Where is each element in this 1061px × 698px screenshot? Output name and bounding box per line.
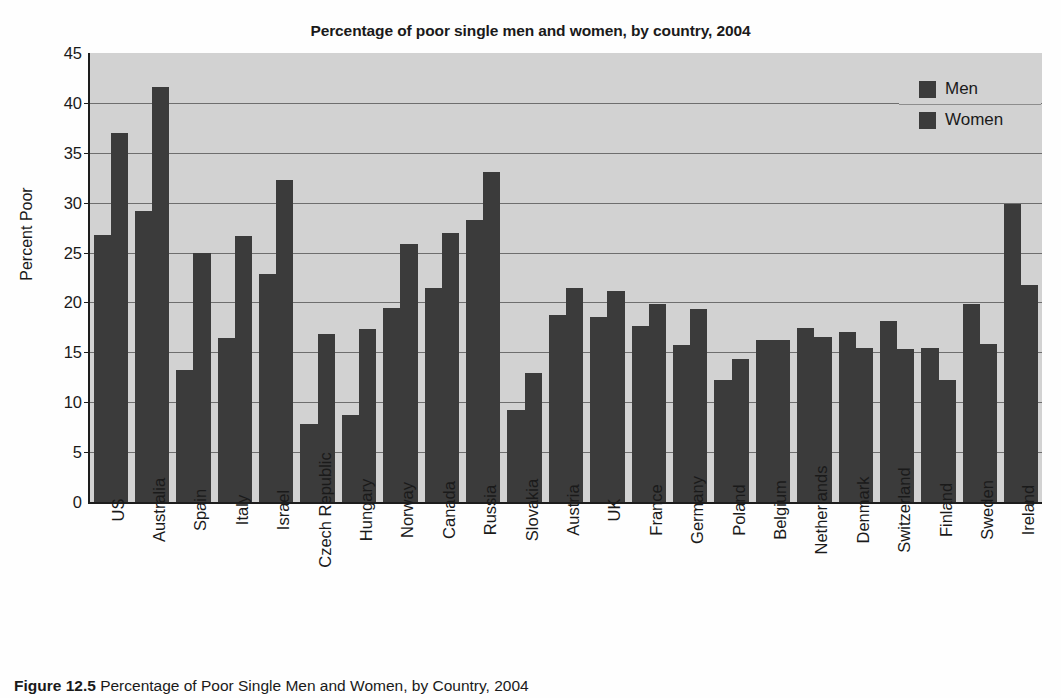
x-tick-cell: Sweden [957, 506, 998, 656]
bar-men [921, 348, 938, 502]
bar-women [400, 244, 417, 502]
x-tick-cell: Russia [461, 506, 502, 656]
x-tick-cell: Finland [916, 506, 957, 656]
y-tick-label: 20 [64, 293, 82, 312]
legend-label: Men [945, 79, 978, 99]
x-tick-label: Netherlands [812, 466, 831, 555]
x-tick-cell: Norway [378, 506, 419, 656]
y-axis-tick-labels: 454035302520151050 [44, 53, 88, 502]
bar-men [425, 288, 442, 502]
bar-group [628, 53, 669, 502]
bar-women [276, 180, 293, 502]
bar-group [90, 53, 131, 502]
bar-women [111, 133, 128, 502]
bar-men [259, 274, 276, 502]
bar-group [794, 53, 835, 502]
bar-group [504, 53, 545, 502]
x-tick-cell: Italy [212, 506, 253, 656]
bar-women [980, 344, 997, 502]
bar-men [714, 380, 731, 502]
bar-group [131, 53, 172, 502]
bar-men [135, 211, 152, 502]
x-tick-label: Norway [398, 482, 417, 538]
chart-title: Percentage of poor single men and women,… [0, 22, 1061, 40]
bar-women [649, 304, 666, 502]
bar-group [711, 53, 752, 502]
x-tick-label: Hungary [357, 479, 376, 541]
x-tick-cell: France [626, 506, 667, 656]
x-tick-cell: Hungary [336, 506, 377, 656]
bar-group [587, 53, 628, 502]
bar-group [752, 53, 793, 502]
bar-women [773, 340, 790, 502]
bar-men [218, 338, 235, 502]
x-tick-cell: Switzerland [874, 506, 915, 656]
x-tick-label: Austria [564, 484, 583, 535]
x-tick-label: Spain [191, 489, 210, 531]
bar-women [690, 309, 707, 502]
bar-men [756, 340, 773, 502]
x-tick-label: Canada [440, 481, 459, 539]
bar-group [835, 53, 876, 502]
bar-men [176, 370, 193, 502]
bar-group [380, 53, 421, 502]
x-tick-label: Belgium [771, 480, 790, 540]
x-tick-cell: Poland [709, 506, 750, 656]
x-tick-label: Finland [937, 483, 956, 537]
bar-men [632, 326, 649, 502]
bar-group [173, 53, 214, 502]
y-tick-label: 45 [64, 44, 82, 63]
bar-group [669, 53, 710, 502]
x-tick-cell: Israel [254, 506, 295, 656]
legend-label: Women [945, 110, 1003, 130]
bar-women [607, 291, 624, 502]
x-tick-label: France [647, 484, 666, 535]
legend-item: Men [899, 74, 1041, 104]
x-tick-cell: Slovakia [502, 506, 543, 656]
x-tick-label: Czech Republic [316, 452, 335, 568]
y-tick-label: 30 [64, 193, 82, 212]
bar-group [338, 53, 379, 502]
x-tick-cell: Australia [129, 506, 170, 656]
y-tick-label: 40 [64, 93, 82, 112]
bar-women [152, 87, 169, 502]
y-tick-label: 5 [73, 443, 82, 462]
x-tick-label: Italy [233, 495, 252, 525]
bar-women [442, 233, 459, 502]
y-tick-label: 0 [73, 493, 82, 512]
x-tick-label: Germany [688, 476, 707, 544]
x-tick-label: Sweden [978, 480, 997, 540]
y-tick-label: 25 [64, 243, 82, 262]
figure-caption-number: Figure 12.5 [14, 677, 96, 694]
x-axis-tick-labels: USAustraliaSpainItalyIsraelCzech Republi… [88, 506, 1040, 656]
y-tick-label: 15 [64, 343, 82, 362]
x-tick-cell: Denmark [833, 506, 874, 656]
x-tick-cell: UK [585, 506, 626, 656]
legend-item: Women [899, 104, 1041, 135]
x-tick-label: Switzerland [895, 467, 914, 552]
legend-swatch-men [919, 81, 936, 98]
bar-group [214, 53, 255, 502]
x-tick-cell: Ireland [999, 506, 1040, 656]
x-tick-label: Poland [730, 484, 749, 535]
bar-group [545, 53, 586, 502]
figure-caption-text: Percentage of Poor Single Men and Women,… [100, 677, 529, 694]
bar-women [193, 253, 210, 502]
x-tick-label: Israel [274, 490, 293, 530]
chart-legend: MenWomen [899, 70, 1041, 141]
bar-men [590, 317, 607, 502]
bar-women [483, 172, 500, 502]
bar-women [1021, 285, 1038, 503]
y-axis-title: Percent Poor [18, 144, 36, 324]
x-tick-cell: Spain [171, 506, 212, 656]
bar-men [383, 308, 400, 502]
x-tick-label: US [109, 499, 128, 522]
figure-caption: Figure 12.5 Percentage of Poor Single Me… [14, 676, 1054, 698]
legend-swatch-women [919, 112, 936, 129]
x-tick-cell: Austria [543, 506, 584, 656]
x-tick-cell: Czech Republic [295, 506, 336, 656]
bar-men [466, 220, 483, 502]
x-tick-cell: Canada [419, 506, 460, 656]
x-tick-label: Denmark [854, 477, 873, 544]
bar-women [235, 236, 252, 502]
